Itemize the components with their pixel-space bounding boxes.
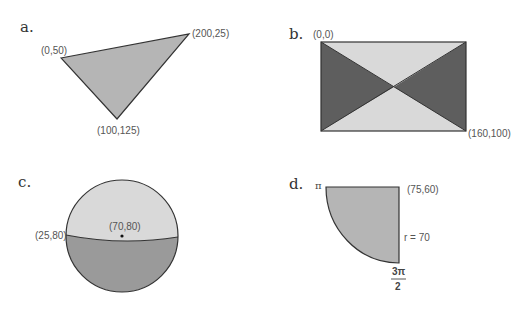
- center-dot: [120, 234, 123, 237]
- panel-b: b. (0,0) (160,100): [289, 25, 511, 139]
- panel-c: c. (70,80) (25,80): [18, 173, 178, 292]
- panel-a-label: a.: [20, 18, 34, 36]
- circle-bottom-region: [66, 235, 178, 292]
- corner-label-top-left: (0,0): [313, 29, 334, 40]
- panel-c-label: c.: [18, 173, 31, 191]
- corner-label-bottom-right: (160,100): [468, 128, 511, 139]
- corner-label: (75,60): [407, 184, 439, 195]
- panel-a: a. (0,50) (200,25) (100,125): [20, 18, 229, 136]
- angle-start-label: π: [315, 180, 322, 191]
- panel-b-label: b.: [289, 25, 303, 43]
- panel-d: d. π (75,60) r = 70 3π 2: [289, 175, 439, 292]
- angle-end-denominator: 2: [395, 281, 401, 292]
- angle-end-numerator: 3π: [392, 266, 406, 277]
- vertex-label-left: (0,50): [41, 45, 67, 56]
- center-label: (70,80): [109, 221, 141, 232]
- panel-d-label: d.: [289, 175, 303, 193]
- diagram-canvas: a. (0,50) (200,25) (100,125) b. (0,0) (1…: [0, 0, 524, 316]
- quarter-sector: [326, 187, 399, 263]
- vertex-label-bottom: (100,125): [97, 125, 140, 136]
- vertex-label-right: (200,25): [192, 28, 229, 39]
- triangle-shape: [61, 34, 189, 119]
- left-point-label: (25,80): [35, 230, 67, 241]
- radius-label: r = 70: [404, 232, 430, 243]
